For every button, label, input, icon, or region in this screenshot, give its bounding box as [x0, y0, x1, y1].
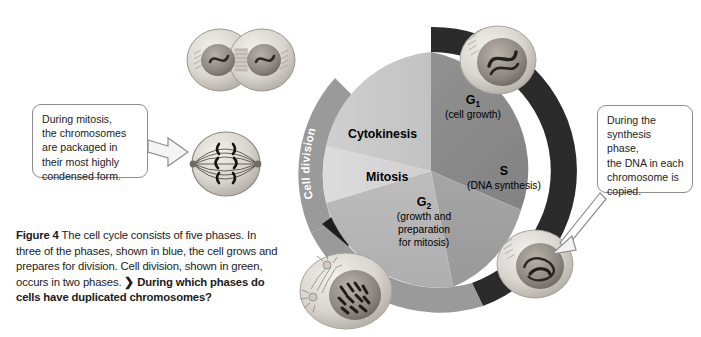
caption-line-1: The cell cycle consists of five phases. …: [62, 229, 257, 241]
label-mitosis: Mitosis: [366, 170, 409, 184]
micrograph-s-phase: [494, 228, 576, 310]
left-callout-arrow: [148, 138, 188, 166]
callout-left-line-2: the chromosomes: [42, 126, 139, 140]
label-s: S: [500, 164, 508, 178]
micrograph-cytokinesis: [186, 26, 296, 98]
callout-right-line-2: synthesis phase,: [607, 127, 684, 155]
callout-right-line-5: copied.: [607, 184, 684, 198]
figure-number: Figure 4: [16, 229, 59, 241]
caption-line-2: three of the phases, shown in blue, the …: [16, 245, 256, 257]
callout-left-line-3: are packaged in: [42, 140, 139, 154]
label-g2-detail-2: preparation: [398, 224, 450, 235]
callout-right-line-4: chromosome is: [607, 170, 684, 184]
question-marker-icon: ❯: [124, 275, 134, 289]
micrograph-mitosis: [186, 128, 262, 204]
label-s-detail: (DNA synthesis): [467, 180, 541, 191]
figure-canvas: Interphase Cell division: [0, 0, 701, 337]
label-g2-detail-1: (growth and: [397, 211, 452, 222]
callout-left-line-4: their most highly: [42, 155, 139, 169]
callout-mitosis: During mitosis, the chromosomes are pack…: [32, 104, 148, 178]
label-g1-detail: (cell growth): [445, 109, 501, 120]
callout-synthesis: During the synthesis phase, the DNA in e…: [597, 105, 693, 193]
callout-left-line-5: condensed form.: [42, 169, 139, 183]
label-g2-detail-3: for mitosis): [399, 237, 449, 248]
figure-caption: Figure 4 The cell cycle consists of five…: [16, 228, 284, 306]
micrograph-g2: [297, 251, 395, 337]
callout-left-line-1: During mitosis,: [42, 112, 139, 126]
label-cytokinesis: Cytokinesis: [348, 127, 417, 141]
caption-question-1: During which: [137, 276, 207, 288]
callout-right-line-3: the DNA in each: [607, 156, 684, 170]
callout-right-line-1: During the: [607, 113, 684, 127]
micrograph-interphase: [458, 24, 538, 104]
